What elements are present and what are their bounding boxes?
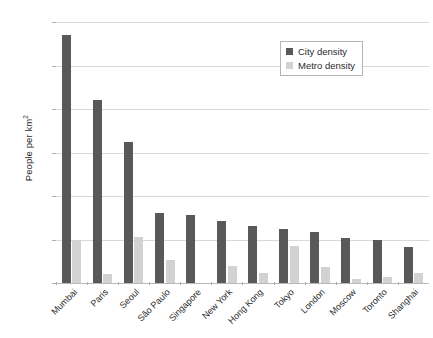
bar-group <box>56 22 87 283</box>
x-axis-label-cell: Tokyo <box>274 285 305 338</box>
bar-group <box>149 22 180 283</box>
bar-group <box>398 22 429 283</box>
y-axis-title-text: People per km <box>23 119 34 182</box>
bar-city-density[interactable] <box>155 213 164 283</box>
bar-group <box>118 22 149 283</box>
plot-area: 05,00010,00015,00020,00025,00030,000 <box>56 22 429 283</box>
bar-metro-density[interactable] <box>228 266 237 283</box>
bar-group <box>242 22 273 283</box>
x-axis-label-cell: Shanghai <box>398 285 429 338</box>
bar-metro-density[interactable] <box>383 277 392 283</box>
bar-metro-density[interactable] <box>134 237 143 283</box>
bar-city-density[interactable] <box>62 35 71 283</box>
bar-city-density[interactable] <box>373 240 382 283</box>
bar-chart: People per km2 05,00010,00015,00020,0002… <box>0 0 433 338</box>
bar-metro-density[interactable] <box>72 240 81 284</box>
bar-city-density[interactable] <box>217 221 226 283</box>
bar-city-density[interactable] <box>248 226 257 283</box>
bar-metro-density[interactable] <box>414 273 423 283</box>
legend: City density Metro density <box>280 41 363 76</box>
x-axis-tick-mark <box>56 282 57 285</box>
bar-city-density[interactable] <box>124 142 133 283</box>
x-axis-tick-mark <box>211 282 212 285</box>
x-axis-tick-mark <box>336 282 337 285</box>
x-axis-label-cell: Hong Kong <box>242 285 273 338</box>
bar-city-density[interactable] <box>341 238 350 283</box>
y-axis-title-superscript: 2 <box>22 115 29 119</box>
bar-city-density[interactable] <box>310 232 319 283</box>
bar-city-density[interactable] <box>93 100 102 283</box>
bar-metro-density[interactable] <box>321 267 330 283</box>
x-axis-label-cell: Mumbai <box>56 285 87 338</box>
x-axis-tick-mark <box>398 282 399 285</box>
x-axis-label-cell: Paris <box>87 285 118 338</box>
x-axis-tick-mark <box>149 282 150 285</box>
legend-swatch-icon-metro-density <box>286 62 293 69</box>
x-axis-tick-label: Paris <box>88 287 110 309</box>
x-axis-tick-mark <box>87 282 88 285</box>
legend-item-metro-density[interactable]: Metro density <box>286 60 355 71</box>
bar-metro-density[interactable] <box>290 246 299 283</box>
legend-label-city-density: City density <box>298 46 347 57</box>
bar-metro-density[interactable] <box>352 279 361 283</box>
bar-group <box>367 22 398 283</box>
bar-metro-density[interactable] <box>166 260 175 283</box>
y-axis-title: People per km2 <box>22 58 34 238</box>
bars-layer <box>56 22 429 283</box>
legend-item-city-density[interactable]: City density <box>286 46 355 57</box>
x-axis-tick-mark <box>305 282 306 285</box>
x-axis-label-cell: Moscow <box>336 285 367 338</box>
x-axis-tick-label: Mumbai <box>49 287 79 317</box>
x-axis-tick-label: Seoul <box>117 287 140 310</box>
bar-metro-density[interactable] <box>103 274 112 283</box>
bar-metro-density[interactable] <box>259 273 268 283</box>
legend-label-metro-density: Metro density <box>298 60 355 71</box>
x-axis-tick-mark <box>180 282 181 285</box>
bar-group <box>180 22 211 283</box>
x-axis-tick-mark <box>242 282 243 285</box>
x-axis-tick-mark <box>118 282 119 285</box>
bar-city-density[interactable] <box>404 247 413 283</box>
legend-swatch-icon-city-density <box>286 48 293 55</box>
x-axis-tick-mark <box>367 282 368 285</box>
x-axis-tick-label: Tokyo <box>272 287 296 311</box>
bar-group <box>211 22 242 283</box>
bar-city-density[interactable] <box>186 215 195 283</box>
bar-city-density[interactable] <box>279 229 288 283</box>
bar-group <box>87 22 118 283</box>
x-axis-labels: MumbaiParisSeoulSão PauloSingaporeNew Yo… <box>56 285 429 338</box>
x-axis-tick-mark <box>274 282 275 285</box>
